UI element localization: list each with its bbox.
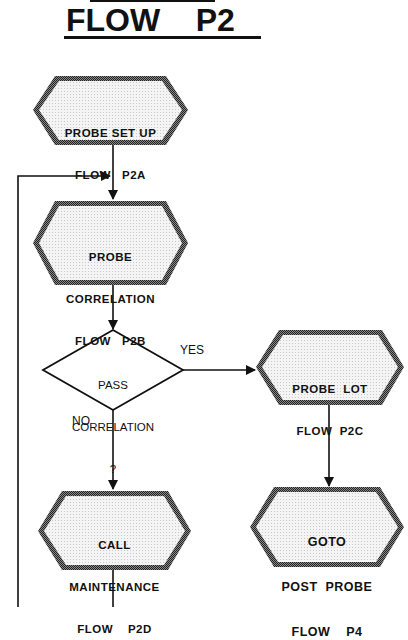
node-decision-line-1: PASS xyxy=(43,378,183,392)
node-p4-line-3: FLOW P4 xyxy=(250,625,404,640)
node-p2a-label: PROBE SET UP FLOW P2A xyxy=(33,98,188,196)
node-p2a-line-1: PROBE SET UP xyxy=(33,126,188,140)
node-p2b-line-1: PROBE xyxy=(33,250,188,264)
node-p2d-line-2: MAINTENANCE xyxy=(38,580,191,594)
node-p4-line-1: GOTO xyxy=(250,535,404,550)
node-p2d-line-1: CALL xyxy=(38,538,191,552)
node-p2b-line-3: FLOW P2B xyxy=(33,334,188,348)
node-p4-line-2: POST PROBE xyxy=(250,580,404,595)
node-decision-line-3: ? xyxy=(43,462,183,476)
edge-label-no: NO xyxy=(72,414,90,428)
node-p2d-line-3: FLOW P2D xyxy=(38,622,191,636)
node-p2b-label: PROBE CORRELATION FLOW P2B xyxy=(33,222,188,362)
node-p2b-line-2: CORRELATION xyxy=(33,292,188,306)
node-p2c-label: PROBE LOT FLOW P2C xyxy=(256,354,404,452)
node-p4-label: GOTO POST PROBE FLOW P4 xyxy=(250,505,404,640)
node-p2d-label: CALL MAINTENANCE FLOW P2D xyxy=(38,510,191,640)
node-p2a-line-2: FLOW P2A xyxy=(33,168,188,182)
node-decision-line-2: CORRELATION xyxy=(43,420,183,434)
node-p2c-line-2: FLOW P2C xyxy=(256,424,404,438)
edge-label-yes: YES xyxy=(180,343,204,357)
node-decision-label: PASS CORRELATION ? xyxy=(43,350,183,490)
node-p2c-line-1: PROBE LOT xyxy=(256,382,404,396)
